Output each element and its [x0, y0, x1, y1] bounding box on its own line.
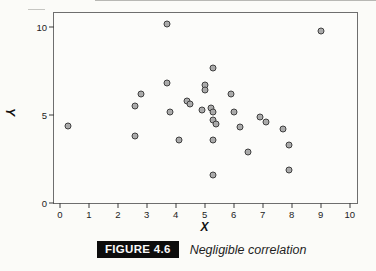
- data-point: [245, 148, 252, 155]
- x-tick-label: 1: [86, 209, 91, 220]
- figure-caption: FIGURE 4.6 Negligible correlation: [97, 241, 306, 258]
- x-tick-label: 4: [173, 209, 178, 220]
- y-axis-label: Y: [3, 108, 17, 116]
- data-point: [201, 87, 208, 94]
- y-tick-label: 5: [42, 110, 47, 121]
- x-tick-mark: [146, 203, 147, 208]
- data-point: [210, 136, 217, 143]
- scan-artifact-dash: [28, 9, 45, 10]
- x-tick-mark: [175, 203, 176, 208]
- x-tick-mark: [320, 203, 321, 208]
- data-point: [198, 106, 205, 113]
- data-point: [175, 136, 182, 143]
- data-point: [227, 90, 234, 97]
- y-tick-label: 10: [36, 22, 47, 33]
- x-tick-mark: [59, 203, 60, 208]
- data-point: [236, 124, 243, 131]
- x-tick-mark: [262, 203, 263, 208]
- scatter-plot: 0123456789100510: [53, 12, 358, 204]
- y-tick-label: 0: [42, 198, 47, 209]
- data-point: [210, 108, 217, 115]
- x-tick-label: 6: [231, 209, 236, 220]
- x-tick-label: 5: [202, 209, 207, 220]
- data-point: [166, 108, 173, 115]
- data-point: [285, 141, 292, 148]
- data-point: [164, 20, 171, 27]
- x-tick-label: 7: [260, 209, 265, 220]
- y-tick-mark: [49, 115, 54, 116]
- data-point: [132, 133, 139, 140]
- x-tick-mark: [117, 203, 118, 208]
- x-tick-mark: [88, 203, 89, 208]
- x-tick-label: 10: [344, 209, 355, 220]
- data-point: [210, 171, 217, 178]
- data-point: [230, 108, 237, 115]
- data-point: [213, 120, 220, 127]
- scan-artifact-line: [95, 0, 376, 1]
- data-point: [137, 90, 144, 97]
- data-point: [317, 27, 324, 34]
- x-tick-mark: [204, 203, 205, 208]
- data-point: [164, 80, 171, 87]
- data-point: [210, 64, 217, 71]
- x-tick-label: 2: [115, 209, 120, 220]
- x-tick-label: 3: [144, 209, 149, 220]
- data-point: [132, 103, 139, 110]
- y-tick-mark: [49, 203, 54, 204]
- x-tick-label: 9: [318, 209, 323, 220]
- figure-page: 0123456789100510 Y X FIGURE 4.6 Negligib…: [0, 0, 376, 271]
- data-point: [187, 101, 194, 108]
- data-point: [285, 166, 292, 173]
- data-point: [262, 119, 269, 126]
- y-tick-mark: [49, 27, 54, 28]
- x-tick-mark: [349, 203, 350, 208]
- data-point: [280, 126, 287, 133]
- x-tick-label: 8: [289, 209, 294, 220]
- figure-caption-text: Negligible correlation: [190, 243, 307, 257]
- x-tick-mark: [291, 203, 292, 208]
- x-tick-mark: [233, 203, 234, 208]
- x-tick-label: 0: [57, 209, 62, 220]
- figure-caption-label: FIGURE 4.6: [97, 241, 179, 258]
- data-point: [65, 122, 72, 129]
- x-axis-label: X: [53, 220, 356, 234]
